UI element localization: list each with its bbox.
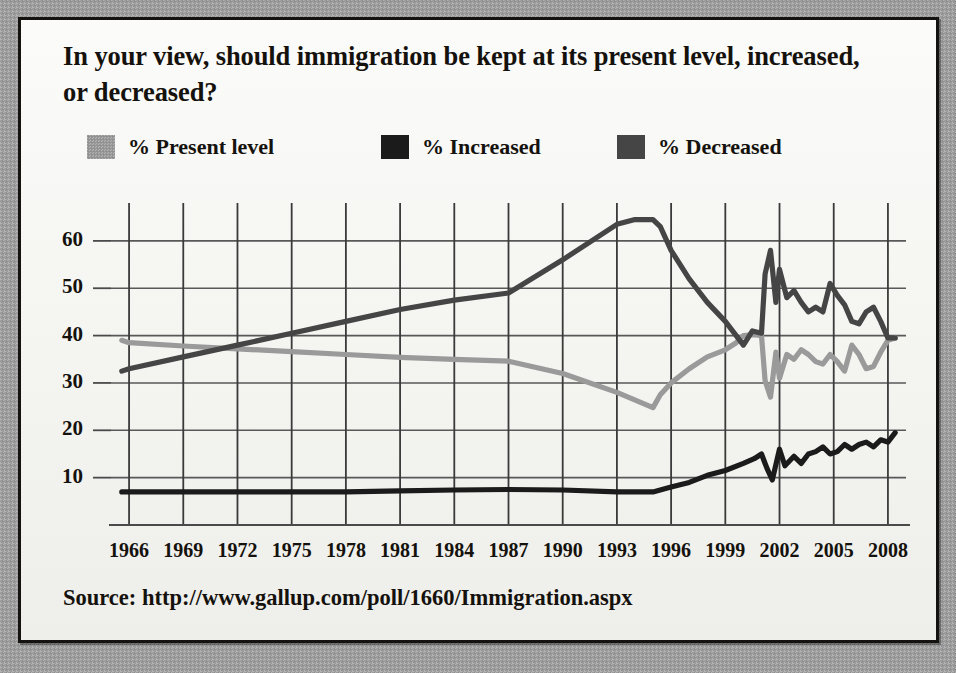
source-caption: Source: http://www.gallup.com/poll/1660/… xyxy=(63,585,633,611)
chart-card-surface: In your view, should immigration be kept… xyxy=(21,20,936,640)
y-axis-tick-label: 60 xyxy=(39,227,83,252)
y-axis-tick-label: 30 xyxy=(39,369,83,394)
y-axis-tick-label: 10 xyxy=(39,464,83,489)
plot-area: 1020304050601966196919721975197819811984… xyxy=(21,20,936,640)
y-axis-tick-label: 40 xyxy=(39,322,83,347)
x-axis-tick-label: 2008 xyxy=(855,539,921,562)
y-axis-tick-label: 50 xyxy=(39,274,83,299)
y-axis-tick-label: 20 xyxy=(39,416,83,441)
chart-card: In your view, should immigration be kept… xyxy=(18,17,939,643)
